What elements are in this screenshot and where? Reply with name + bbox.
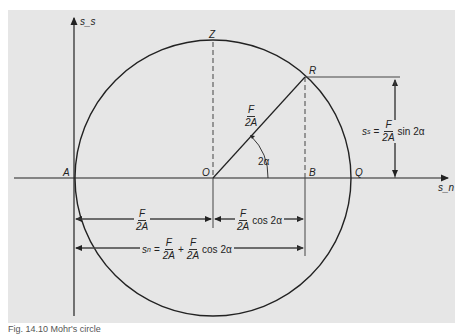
dim-oa-label: F2A	[134, 209, 150, 232]
point-q-label: Q	[355, 168, 363, 178]
point-a-label: A	[63, 168, 70, 178]
s-s-axis-label: s_s	[80, 17, 96, 27]
angle-label: 2α	[258, 157, 269, 167]
point-r-label: R	[309, 66, 316, 76]
point-z-label: Z	[209, 30, 215, 40]
figure-caption: Fig. 14.10 Mohr's circle	[8, 324, 101, 334]
point-b-label: B	[309, 168, 316, 178]
normal-stress-equation: sn = F2A + F2A cos 2α	[140, 238, 234, 261]
radius-label: F 2A	[245, 105, 257, 128]
shear-stress-equation: ss = F2A sin 2α	[360, 120, 426, 143]
point-o-label: O	[202, 168, 210, 178]
dim-ob-label: F2A cos 2α	[235, 209, 284, 232]
s-n-axis-label: s_n	[438, 183, 454, 193]
